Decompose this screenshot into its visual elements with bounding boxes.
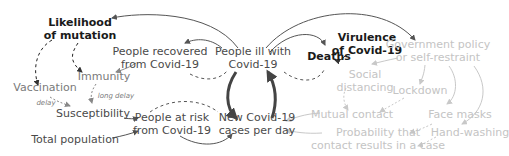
edge-mutation-to-immunity	[72, 43, 82, 72]
node-mutual-contact: Mutual contact	[311, 108, 393, 121]
node-probability-contact: Probability that contact results in a ca…	[311, 126, 445, 152]
edge-ill-deaths-dashed	[284, 70, 324, 80]
node-new-cases: New Covid-19 cases per day	[219, 111, 296, 137]
node-face-masks: Face masks	[428, 108, 492, 121]
edge-label-delay: delay	[36, 99, 55, 107]
node-people-ill: People ill with Covid-19	[215, 45, 291, 71]
edge-mutation-to-vaccination	[36, 40, 52, 85]
edge-recovered-ill-dashed	[190, 70, 228, 79]
node-government-policy: Government policy or self-restraint	[386, 38, 490, 64]
node-susceptibility: Susceptibility	[56, 107, 130, 120]
node-people-at-risk: People at risk from Covid-19	[133, 111, 211, 137]
edge-label-long-delay: long delay	[98, 92, 134, 100]
node-lockdown: Lockdown	[393, 84, 448, 97]
edge-ill-to-mutation	[112, 15, 238, 48]
edge-government-to-lockdown	[420, 65, 425, 84]
node-total-population: Total population	[31, 133, 119, 146]
node-people-recovered: People recovered from Covid-19	[112, 45, 207, 71]
node-social-distancing: Social distancing	[337, 68, 394, 94]
node-vaccination: Vaccination	[13, 81, 76, 94]
edge-government-to-facemasks	[447, 66, 456, 104]
node-immunity: Immunity	[78, 70, 131, 83]
edge-immunity-to-susceptibility	[91, 84, 96, 103]
node-likelihood-of-mutation: Likelihood of mutation	[44, 16, 117, 42]
